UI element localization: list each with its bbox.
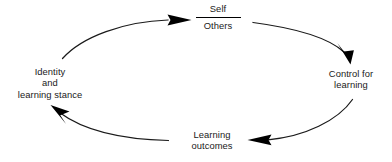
- node-identity-line-2: and: [2, 77, 98, 88]
- node-identity-and-learning-stance: Identity and learning stance: [2, 66, 98, 100]
- node-control-line-2: learning: [312, 79, 390, 90]
- node-outcomes-line-2: outcomes: [172, 140, 252, 151]
- fraction-bar: [196, 17, 241, 18]
- arrow-identity-to-self-others: [63, 15, 192, 59]
- node-self-others: Self Others: [178, 3, 258, 31]
- arrow-self-others-to-control: [253, 23, 354, 65]
- node-control-line-1: Control for: [312, 68, 390, 79]
- fraction-denominator: Others: [178, 20, 258, 31]
- node-identity-line-1: Identity: [2, 66, 98, 77]
- fraction-numerator: Self: [178, 3, 258, 14]
- node-identity-line-3: learning stance: [2, 89, 98, 100]
- arrow-control-to-outcomes: [248, 100, 353, 146]
- node-control-for-learning: Control for learning: [312, 68, 390, 91]
- node-learning-outcomes: Learning outcomes: [172, 129, 252, 152]
- node-outcomes-line-1: Learning: [172, 129, 252, 140]
- arrow-outcomes-to-identity: [51, 105, 169, 141]
- cycle-diagram: Self Others Control for learning Learnin…: [0, 0, 392, 162]
